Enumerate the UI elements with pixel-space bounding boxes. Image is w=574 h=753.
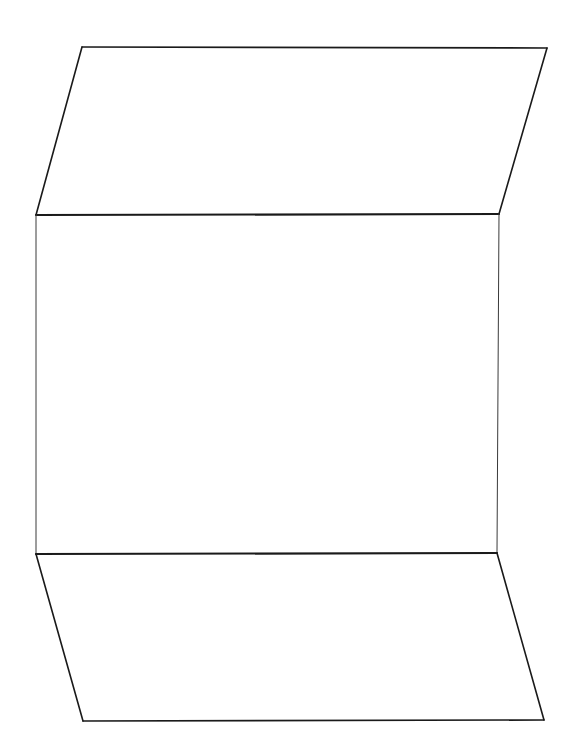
bottom-flap-right-edge xyxy=(497,553,544,720)
top-flap-left-edge xyxy=(36,47,82,215)
upper-fold-line xyxy=(36,214,499,215)
bottom-flap-left-edge xyxy=(36,554,83,721)
lower-fold-line xyxy=(36,553,497,554)
folded-shape-diagram xyxy=(0,0,574,753)
top-flap-right-edge xyxy=(499,48,547,214)
top-flap-top-edge xyxy=(82,47,547,48)
top-flap xyxy=(36,47,547,215)
bottom-flap xyxy=(36,553,544,721)
center-right-edge xyxy=(497,214,499,553)
center-rectangle xyxy=(36,214,499,554)
bottom-flap-bottom-edge xyxy=(83,720,544,721)
